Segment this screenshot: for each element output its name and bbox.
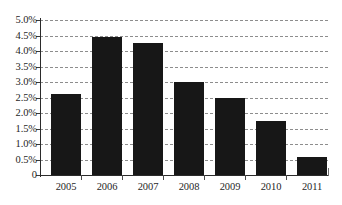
x-tick bbox=[122, 175, 123, 180]
bar-2011 bbox=[297, 157, 327, 175]
bar-rect bbox=[174, 82, 204, 175]
x-axis-label-2005: 2005 bbox=[44, 181, 88, 193]
bar-rect bbox=[297, 157, 327, 175]
y-axis-label: 0 bbox=[0, 170, 37, 181]
bar-2010 bbox=[256, 121, 286, 175]
y-axis-label: 1.5% bbox=[0, 124, 37, 135]
x-axis-label-2010: 2010 bbox=[249, 181, 293, 193]
y-axis-line bbox=[40, 18, 41, 177]
x-tick bbox=[245, 175, 246, 180]
x-tick bbox=[81, 175, 82, 180]
bar-2008 bbox=[174, 82, 204, 175]
x-axis-label-2006: 2006 bbox=[85, 181, 129, 193]
x-axis-label-2008: 2008 bbox=[167, 181, 211, 193]
y-axis-label: 5.0% bbox=[0, 15, 37, 26]
y-axis-label: 4.5% bbox=[0, 31, 37, 42]
x-axis-label-2011: 2011 bbox=[290, 181, 334, 193]
bar-rect bbox=[92, 37, 122, 175]
x-tick bbox=[286, 175, 287, 180]
y-axis-label: 3.0% bbox=[0, 77, 37, 88]
gridline bbox=[40, 36, 328, 37]
y-axis-label: 0.5% bbox=[0, 155, 37, 166]
bar-rect bbox=[133, 43, 163, 175]
bar-chart: 5.0% 4.5% 4.0% 3.5% 3.0% 2.5% 2.0% 1.5% … bbox=[0, 0, 342, 205]
x-tick bbox=[204, 175, 205, 180]
x-axis-label-2009: 2009 bbox=[208, 181, 252, 193]
y-axis-label: 1.0% bbox=[0, 139, 37, 150]
gridline bbox=[40, 67, 328, 68]
gridline bbox=[40, 51, 328, 52]
y-axis-label: 3.5% bbox=[0, 62, 37, 73]
bar-2006 bbox=[92, 37, 122, 175]
bar-rect bbox=[215, 98, 245, 175]
x-axis-label-2007: 2007 bbox=[126, 181, 170, 193]
bar-rect bbox=[256, 121, 286, 175]
y-axis-label: 2.0% bbox=[0, 108, 37, 119]
bar-2009 bbox=[215, 98, 245, 175]
bar-2007 bbox=[133, 43, 163, 175]
y-axis-label: 2.5% bbox=[0, 93, 37, 104]
plot-right-edge bbox=[328, 168, 329, 176]
x-tick bbox=[163, 175, 164, 180]
y-axis-label: 4.0% bbox=[0, 46, 37, 57]
gridline bbox=[40, 20, 328, 21]
bar-rect bbox=[51, 94, 81, 175]
bar-2005 bbox=[51, 94, 81, 175]
plot-area bbox=[40, 20, 328, 175]
